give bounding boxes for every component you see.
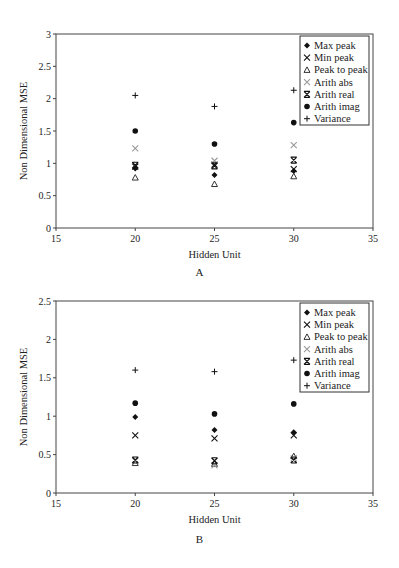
peak-to-peak-marker-icon [132, 175, 138, 181]
legend: Max peakMin peakPeak to peakArith absAri… [300, 36, 369, 125]
y-tick-label: 0 [46, 223, 51, 234]
y-axis-label: Non Dimensional MSE [18, 348, 29, 447]
variance-marker-icon [132, 367, 138, 373]
peak-to-peak-marker-icon [212, 181, 218, 187]
chart-b: 00.511.522.51520253035Hidden UnitNon Dim… [0, 284, 399, 568]
x-axis: 1520253035 [51, 493, 378, 509]
legend-label: Peak to peak [314, 64, 368, 75]
legend-arith-imag-marker-icon [304, 104, 310, 110]
data-points [132, 357, 297, 468]
max-peak-marker-icon [132, 414, 138, 420]
x-axis-label: Hidden Unit [188, 249, 240, 260]
chart-a-plot: 00.511.522.531520253035Hidden UnitNon Di… [0, 0, 399, 270]
y-axis-label: Non Dimensional MSE [18, 82, 29, 181]
x-tick-label: 15 [51, 233, 61, 244]
x-tick-label: 25 [210, 498, 220, 509]
variance-marker-icon [212, 369, 218, 375]
x-tick-label: 20 [130, 498, 140, 509]
x-tick-label: 30 [289, 498, 299, 509]
legend: Max peakMin peakPeak to peakArith absAri… [300, 303, 369, 392]
x-tick-label: 35 [368, 498, 378, 509]
min-peak-marker-icon [132, 432, 138, 438]
y-tick-label: 0 [46, 488, 51, 499]
legend-label: Max peak [314, 40, 356, 51]
legend-label: Arith imag [314, 101, 361, 112]
variance-marker-icon [291, 87, 297, 93]
chart-a: 00.511.522.531520253035Hidden UnitNon Di… [0, 0, 399, 284]
arith-abs-marker-icon [291, 142, 297, 148]
legend-label: Arith real [314, 89, 355, 100]
legend-label: Max peak [314, 307, 356, 318]
y-axis: 00.511.522.5 [39, 296, 57, 499]
arith-real-marker-icon [212, 458, 218, 464]
min-peak-marker-icon [212, 435, 218, 441]
x-tick-label: 25 [210, 233, 220, 244]
x-tick-label: 35 [368, 233, 378, 244]
legend-label: Peak to peak [314, 331, 368, 342]
arith-imag-marker-icon [132, 400, 138, 406]
peak-to-peak-marker-icon [291, 173, 297, 179]
y-tick-label: 3 [46, 29, 51, 40]
data-points [132, 87, 297, 186]
chart-b-caption: B [0, 533, 399, 545]
y-axis: 00.511.522.53 [39, 29, 57, 234]
y-tick-label: 2.5 [39, 61, 52, 72]
chart-a-caption: A [0, 266, 399, 278]
y-tick-label: 1 [46, 411, 51, 422]
y-tick-label: 1.5 [39, 372, 52, 383]
max-peak-marker-icon [291, 429, 297, 435]
y-tick-label: 2 [46, 334, 51, 345]
arith-imag-marker-icon [291, 401, 297, 407]
x-tick-label: 30 [289, 233, 299, 244]
legend-label: Arith abs [314, 77, 353, 88]
x-tick-label: 20 [130, 233, 140, 244]
legend-label: Min peak [314, 52, 355, 63]
variance-marker-icon [291, 357, 297, 363]
y-tick-label: 1 [46, 158, 51, 169]
legend-label: Variance [314, 113, 351, 124]
variance-marker-icon [212, 103, 218, 109]
legend-label: Arith imag [314, 368, 361, 379]
max-peak-marker-icon [212, 172, 218, 178]
arith-imag-marker-icon [212, 411, 218, 417]
x-axis-label: Hidden Unit [188, 514, 240, 525]
y-tick-label: 2 [46, 93, 51, 104]
arith-real-marker-icon [291, 157, 297, 163]
legend-arith-imag-marker-icon [304, 371, 310, 377]
x-tick-label: 15 [51, 498, 61, 509]
y-tick-label: 1.5 [39, 126, 52, 137]
legend-label: Variance [314, 380, 351, 391]
chart-b-plot: 00.511.522.51520253035Hidden UnitNon Dim… [0, 284, 399, 554]
arith-imag-marker-icon [132, 128, 138, 134]
y-tick-label: 0.5 [39, 190, 52, 201]
y-tick-label: 0.5 [39, 449, 52, 460]
legend-label: Arith real [314, 356, 355, 367]
arith-real-marker-icon [212, 163, 218, 169]
legend-label: Min peak [314, 319, 355, 330]
legend-label: Arith abs [314, 344, 353, 355]
x-axis: 1520253035 [51, 228, 378, 244]
variance-marker-icon [132, 92, 138, 98]
arith-imag-marker-icon [291, 120, 297, 126]
arith-real-marker-icon [132, 457, 138, 463]
max-peak-marker-icon [212, 427, 218, 433]
arith-abs-marker-icon [132, 145, 138, 151]
arith-imag-marker-icon [212, 141, 218, 147]
y-tick-label: 2.5 [39, 296, 52, 307]
